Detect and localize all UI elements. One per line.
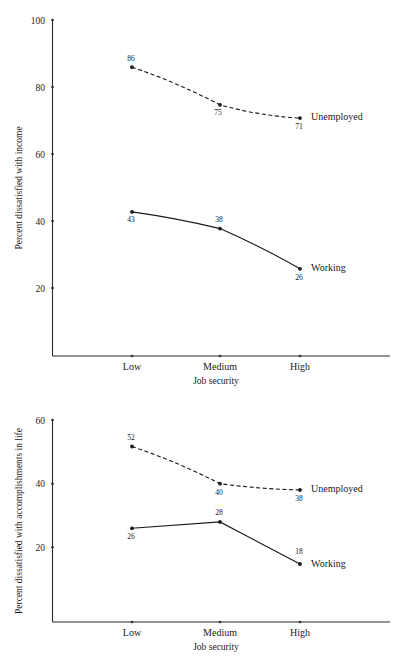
data-label: 28 — [215, 508, 223, 517]
series-label-working-top: Working — [311, 262, 346, 273]
y-tick-label: 40 — [36, 479, 46, 489]
data-label: 38 — [295, 494, 303, 503]
data-label: 40 — [215, 488, 223, 497]
data-label: 26 — [127, 532, 135, 541]
x-ticks-bottom: Low Medium High — [123, 621, 310, 638]
series-label-unemployed-top: Unemployed — [311, 111, 363, 122]
y-tick-label: 100 — [31, 16, 46, 26]
data-point — [130, 445, 134, 449]
series-label-working-bottom: Working — [311, 558, 346, 569]
x-tick-label-low: Low — [123, 361, 142, 372]
data-label: 52 — [127, 433, 135, 442]
figure-page: 100 80 60 40 20 Percent dissatisfied wit… — [0, 0, 396, 662]
x-tick-label-low: Low — [123, 627, 142, 638]
series-line-working-bottom — [132, 522, 300, 564]
y-tick-label: 60 — [36, 150, 46, 160]
y-axis-title-bottom: Percent dissatisfied with accomplishment… — [14, 428, 24, 614]
y-ticks-top: 100 80 60 40 20 — [31, 16, 54, 294]
y-axis-title-top: Percent dissatisfied with income — [14, 126, 24, 249]
series-working-bottom: 26 28 18 Working — [127, 508, 346, 569]
data-point — [218, 482, 222, 486]
data-point — [130, 526, 134, 530]
y-tick-label: 60 — [36, 416, 46, 426]
data-point — [130, 65, 134, 69]
data-label: 86 — [127, 54, 135, 63]
y-tick-label: 20 — [36, 284, 46, 294]
data-label: 26 — [295, 273, 303, 282]
series-line-unemployed-bottom — [132, 447, 300, 491]
series-unemployed-bottom: 52 40 38 Unemployed — [127, 433, 362, 504]
x-axis-title-top: Job security — [193, 376, 239, 386]
data-label: 75 — [214, 108, 222, 117]
y-ticks-bottom: 60 40 20 — [36, 416, 54, 553]
data-point — [130, 210, 134, 214]
data-label: 18 — [295, 547, 303, 556]
data-point — [218, 227, 222, 231]
x-tick-label-high: High — [290, 627, 310, 638]
x-tick-label-high: High — [290, 361, 310, 372]
y-tick-label: 40 — [36, 217, 46, 227]
data-point — [218, 520, 222, 524]
chart-accomplishments: 60 40 20 Percent dissatisfied with accom… — [0, 396, 396, 662]
data-label: 43 — [127, 215, 135, 224]
data-point — [298, 562, 302, 566]
y-tick-label: 20 — [36, 543, 46, 553]
data-point — [298, 116, 302, 120]
data-point — [298, 488, 302, 492]
series-label-unemployed-bottom: Unemployed — [311, 483, 363, 494]
series-working-top: 43 38 26 Working — [127, 210, 346, 282]
data-point — [298, 267, 302, 271]
chart-income: 100 80 60 40 20 Percent dissatisfied wit… — [0, 0, 396, 396]
x-tick-label-medium: Medium — [203, 627, 237, 638]
y-tick-label: 80 — [36, 83, 46, 93]
x-axis-title-bottom: Job security — [193, 642, 239, 652]
x-tick-label-medium: Medium — [203, 361, 237, 372]
x-ticks-top: Low Medium High — [123, 355, 310, 372]
series-unemployed-top: 86 75 71 Unemployed — [127, 54, 362, 131]
data-label: 71 — [295, 122, 303, 131]
data-label: 38 — [215, 215, 223, 224]
data-point — [218, 103, 222, 107]
